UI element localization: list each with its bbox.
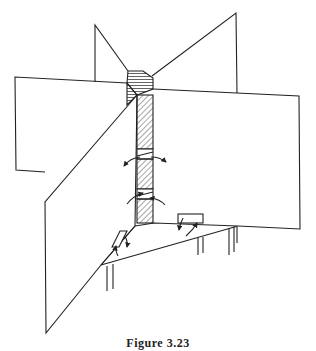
back-right-fin: [152, 13, 237, 93]
arrow-icon: [125, 236, 127, 247]
right-panel: [153, 89, 300, 229]
arrow-icon: [186, 223, 197, 236]
platform-legs: [107, 227, 237, 291]
column-segment-lower: [137, 199, 153, 223]
column-segment-middle: [137, 159, 153, 189]
column-segment-upper: [137, 95, 153, 149]
back-left-fin: [95, 25, 128, 82]
front-diagonal-panel: [45, 95, 137, 333]
figure-caption: Figure 3.23: [0, 336, 316, 351]
